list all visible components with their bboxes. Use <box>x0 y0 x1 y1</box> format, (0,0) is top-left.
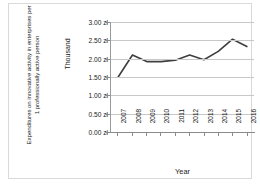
x-axis-title: Year <box>110 167 255 176</box>
y-axis-tick-mark <box>106 40 110 41</box>
gridline <box>111 22 254 23</box>
x-axis-tick-label: 2012 <box>192 109 202 135</box>
x-axis-tick-label: 2009 <box>149 109 159 135</box>
y-axis-tick-label: 3.00 zł <box>74 19 108 26</box>
x-axis-tick-mark <box>204 132 205 136</box>
x-axis-tick-mark <box>189 132 190 136</box>
y-axis-tick-label: 1.50 zł <box>74 74 108 81</box>
x-axis-tick-label: 2015 <box>235 109 245 135</box>
chart-frame: Expenditures on innovative activity in e… <box>8 3 252 179</box>
gridline <box>111 95 254 96</box>
y-axis-tick-label: 0.50 zł <box>74 110 108 117</box>
y-axis-tick-mark <box>106 132 110 133</box>
x-axis-tick-mark <box>132 132 133 136</box>
y-axis-tick-label: 1.00 zł <box>74 92 108 99</box>
gridline <box>111 77 254 78</box>
y-axis-tick-mark <box>106 77 110 78</box>
y-axis-tick-label: 2.50 zł <box>74 37 108 44</box>
y-axis-title: Expenditures on innovative activity in e… <box>10 5 56 145</box>
gridline <box>111 59 254 60</box>
x-axis-tick-mark <box>160 132 161 136</box>
y-axis-tick-mark <box>106 95 110 96</box>
gridline <box>111 40 254 41</box>
x-axis-tick-label: 2010 <box>163 109 173 135</box>
x-axis-tick-mark <box>117 132 118 136</box>
x-axis-tick-mark <box>218 132 219 136</box>
y-axis-tick-label: 0.00 zł <box>74 129 108 136</box>
x-axis-tick-label: 2008 <box>135 109 145 135</box>
x-axis-tick-mark <box>232 132 233 136</box>
x-axis-tick-label: 2016 <box>250 109 260 135</box>
x-axis-tick-label: 2007 <box>120 109 130 135</box>
x-axis-tick-mark <box>247 132 248 136</box>
y-axis-tick-labels: 0.00 zł0.50 zł1.00 zł1.50 zł2.00 zł2.50 … <box>69 4 108 196</box>
x-axis-tick-label: 2011 <box>178 109 188 135</box>
x-axis-tick-mark <box>146 132 147 136</box>
x-axis-tick-label: 2013 <box>207 109 217 135</box>
x-axis-tick-label: 2014 <box>221 109 231 135</box>
y-axis-tick-mark <box>106 22 110 23</box>
y-axis-tick-label: 2.00 zł <box>74 55 108 62</box>
y-axis-tick-mark <box>106 114 110 115</box>
x-axis-tick-mark <box>175 132 176 136</box>
y-axis-tick-mark <box>106 59 110 60</box>
